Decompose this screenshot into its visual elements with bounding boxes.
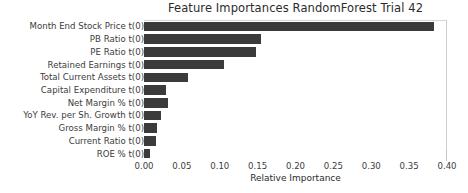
y-axis-tick-label: Capital Expenditure t(0): [2, 85, 144, 95]
y-axis-tick-label: Retained Earnings t(0): [2, 60, 144, 70]
x-axis-tick-label: 0.40: [437, 161, 456, 171]
bar: [144, 123, 157, 133]
x-axis-tick-label: 0.15: [248, 161, 267, 171]
x-axis-tick-label: 0.20: [286, 161, 305, 171]
bar: [144, 149, 150, 159]
bar: [144, 136, 156, 146]
y-axis-tick-label: YoY Rev. per Sh. Growth t(0): [2, 110, 144, 120]
bar: [144, 22, 434, 32]
x-axis-tick-mark: [446, 150, 447, 161]
bar: [144, 34, 261, 44]
x-axis-tick-label: 0.25: [324, 161, 343, 171]
y-axis-tick-label: PE Ratio t(0): [2, 47, 144, 57]
x-axis-tick-label: 0.30: [362, 161, 381, 171]
right-spine: [446, 20, 447, 160]
x-axis-tick-label: 0.10: [210, 161, 229, 171]
y-axis-tick-label: Month End Stock Price t(0): [2, 21, 144, 31]
chart-title: Feature Importances RandomForest Trial 4…: [144, 1, 447, 15]
plot-area: [144, 20, 447, 160]
feature-importances-chart: Feature Importances RandomForest Trial 4…: [0, 0, 468, 193]
y-axis-tick-label: Net Margin % t(0): [2, 98, 144, 108]
bar: [144, 85, 166, 95]
bar: [144, 98, 168, 108]
y-axis-tick-label: Total Current Assets t(0): [2, 72, 144, 82]
y-axis-tick-labels: Month End Stock Price t(0)PB Ratio t(0)P…: [0, 20, 144, 160]
bar: [144, 47, 256, 57]
y-axis-tick-label: ROE % t(0): [2, 149, 144, 159]
y-axis-tick-label: Gross Margin % t(0): [2, 123, 144, 133]
x-axis-tick-labels: 0.000.050.100.150.200.250.300.350.40: [0, 161, 468, 173]
y-axis-tick-label: PB Ratio t(0): [2, 34, 144, 44]
bar: [144, 60, 224, 70]
y-axis-tick-label: Current Ratio t(0): [2, 136, 144, 146]
bar: [144, 73, 188, 83]
x-axis-label: Relative Importance: [144, 173, 447, 183]
x-axis-tick-label: 0.00: [134, 161, 153, 171]
x-axis-tick-label: 0.35: [400, 161, 419, 171]
bar: [144, 111, 161, 121]
x-axis-tick-label: 0.05: [172, 161, 191, 171]
